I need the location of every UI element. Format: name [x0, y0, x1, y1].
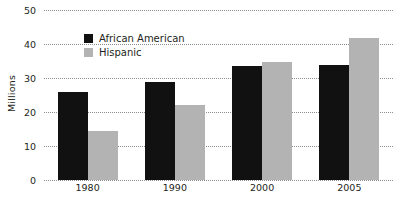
gridline	[44, 180, 393, 181]
y-tick-label: 40	[6, 39, 36, 50]
legend-item: Hispanic	[84, 47, 185, 58]
bar-group	[319, 10, 379, 180]
bar	[349, 38, 379, 180]
legend-label: Hispanic	[99, 47, 142, 58]
bar-chart: Millions 01020304050 1980199020002005 Af…	[0, 0, 401, 215]
y-tick-label: 0	[6, 175, 36, 186]
y-tick-label: 10	[6, 141, 36, 152]
x-tick-label: 2000	[232, 182, 292, 202]
bar	[319, 65, 349, 180]
chart-legend: African AmericanHispanic	[84, 33, 185, 58]
bar	[145, 82, 175, 180]
bar	[88, 131, 118, 180]
bar	[58, 92, 88, 180]
legend-swatch-icon	[84, 48, 93, 57]
y-tick-label: 30	[6, 73, 36, 84]
x-tick-label: 1980	[58, 182, 118, 202]
x-axis-tick-labels: 1980199020002005	[44, 182, 393, 202]
x-tick-label: 2005	[319, 182, 379, 202]
legend-swatch-icon	[84, 34, 93, 43]
y-tick-label: 20	[6, 107, 36, 118]
bar	[232, 66, 262, 180]
bar-group	[232, 10, 292, 180]
y-axis-title: Millions	[6, 59, 17, 129]
legend-item: African American	[84, 33, 185, 44]
x-tick-label: 1990	[145, 182, 205, 202]
bar	[175, 105, 205, 180]
legend-label: African American	[99, 33, 185, 44]
bar	[262, 62, 292, 180]
y-tick-label: 50	[6, 5, 36, 16]
